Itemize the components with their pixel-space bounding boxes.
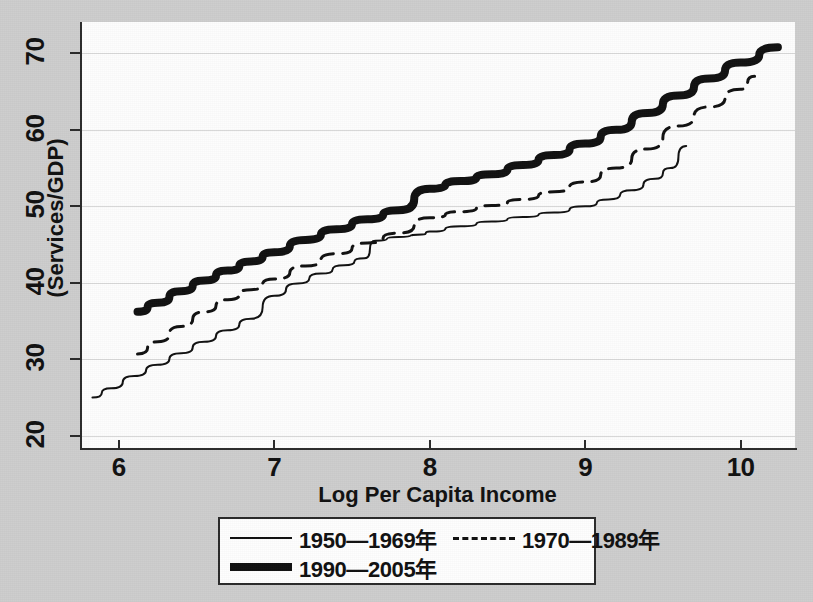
y-tick-label: 70 (20, 29, 51, 75)
plot-area (80, 22, 795, 448)
y-tick-mark (70, 282, 81, 284)
y-tick-label: 20 (20, 411, 51, 457)
x-tick-label: 10 (711, 452, 771, 483)
legend-swatch-thick-line-icon (230, 560, 292, 574)
y-tick-mark (70, 435, 81, 437)
legend-row: 1950—1969年 1970—1989年 (230, 523, 586, 552)
x-tick-mark (584, 440, 586, 450)
legend-entry-1970-1989[interactable]: 1970—1989年 (453, 522, 660, 554)
x-tick-mark (118, 440, 120, 450)
x-axis-title: Log Per Capita Income (80, 482, 795, 508)
y-tick-mark (70, 52, 81, 54)
x-tick-label: 7 (244, 452, 304, 483)
legend-entry-1990-2005[interactable]: 1990—2005年 (230, 551, 437, 583)
y-tick-mark (70, 358, 81, 360)
x-tick-mark (429, 440, 431, 450)
chart-legend: 1950—1969年 1970—1989年 1990—2005年 (218, 517, 596, 585)
gridline (82, 206, 795, 207)
legend-entry-1950-1969[interactable]: 1950—1969年 (230, 522, 437, 554)
y-tick-mark (70, 129, 81, 131)
gridline (82, 130, 795, 131)
legend-label: 1970—1989年 (522, 522, 660, 554)
x-tick-label: 8 (400, 452, 460, 483)
gridline (82, 53, 795, 54)
x-tick-mark (273, 440, 275, 450)
x-tick-label: 9 (555, 452, 615, 483)
gridline (82, 283, 795, 284)
services-gdp-line-chart: 203040506070 678910 (Services/GDP) Log P… (0, 0, 813, 602)
x-tick-mark (740, 440, 742, 450)
legend-label: 1990—2005年 (299, 551, 437, 583)
x-tick-label: 6 (89, 452, 149, 483)
y-axis-title: (Services/GDP) (43, 88, 69, 348)
x-axis-line (80, 448, 797, 450)
y-axis-line (80, 22, 82, 450)
gridline (82, 436, 795, 437)
legend-swatch-dashed-line-icon (453, 531, 515, 545)
y-tick-mark (70, 205, 81, 207)
gridline (82, 359, 795, 360)
legend-row: 1990—2005年 (230, 552, 586, 581)
legend-swatch-solid-line-icon (230, 531, 292, 545)
legend-label: 1950—1969年 (299, 522, 437, 554)
